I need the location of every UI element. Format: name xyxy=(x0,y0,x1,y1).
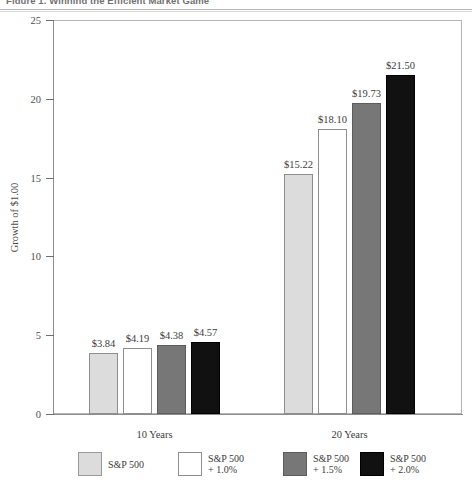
y-tick-label: 25 xyxy=(31,15,42,26)
y-tick-label: 0 xyxy=(36,409,41,420)
y-tick-label: 15 xyxy=(31,172,42,183)
x-group-label: 10 Years xyxy=(136,429,172,440)
bar xyxy=(123,348,152,414)
legend-label: S&P 500+ 2.0% xyxy=(390,453,426,475)
x-axis-line xyxy=(53,414,463,415)
y-tick-mark xyxy=(46,178,54,179)
legend-swatch-icon xyxy=(178,452,202,476)
legend-swatch-icon xyxy=(283,452,307,476)
legend-swatch-icon xyxy=(360,452,384,476)
bar xyxy=(89,353,118,414)
bar xyxy=(157,345,186,414)
bar-value-label: $15.22 xyxy=(284,159,313,170)
y-axis-tick-labels: 0510152025 xyxy=(0,0,44,482)
legend-label-line1: S&P 500 xyxy=(313,453,349,464)
y-tick-mark xyxy=(46,20,54,21)
legend-swatch-icon xyxy=(78,452,102,476)
bar xyxy=(352,103,381,414)
bar-value-label: $4.19 xyxy=(126,333,150,344)
legend-label-line1: S&P 500 xyxy=(108,459,144,470)
y-tick-mark xyxy=(46,414,54,415)
bar-value-label: $3.84 xyxy=(92,338,116,349)
legend-label-line1: S&P 500 xyxy=(208,453,244,464)
y-axis-line xyxy=(53,20,54,415)
legend-label-line2: + 1.5% xyxy=(313,464,349,475)
x-group-label: 20 Years xyxy=(331,429,367,440)
bar xyxy=(191,342,220,414)
legend-item[interactable]: S&P 500+ 1.0% xyxy=(178,452,244,476)
y-tick-mark xyxy=(46,256,54,257)
legend-label: S&P 500 xyxy=(108,459,144,470)
bar xyxy=(386,75,415,414)
bar-value-label: $18.10 xyxy=(318,114,347,125)
legend-item[interactable]: S&P 500+ 2.0% xyxy=(360,452,426,476)
bar-value-label: $4.57 xyxy=(194,327,218,338)
legend-label-line1: S&P 500 xyxy=(390,453,426,464)
y-tick-label: 10 xyxy=(31,251,42,262)
bar xyxy=(318,129,347,414)
bar-value-label: $21.50 xyxy=(386,60,415,71)
legend-label-line2: + 2.0% xyxy=(390,464,426,475)
legend-item[interactable]: S&P 500 xyxy=(78,452,144,476)
bar-value-label: $19.73 xyxy=(352,88,381,99)
y-axis-title: Growth of $1.00 xyxy=(9,158,20,278)
bar xyxy=(284,174,313,414)
title-divider-secondary xyxy=(0,11,472,12)
legend-label: S&P 500+ 1.0% xyxy=(208,453,244,475)
y-tick-mark xyxy=(46,99,54,100)
y-tick-label: 20 xyxy=(31,93,42,104)
chart-legend: S&P 500S&P 500+ 1.0%S&P 500+ 1.5%S&P 500… xyxy=(0,452,472,482)
legend-label-line2: + 1.0% xyxy=(208,464,244,475)
y-tick-label: 5 xyxy=(36,330,41,341)
bar-value-label: $4.38 xyxy=(160,330,184,341)
title-divider xyxy=(0,9,472,10)
legend-item[interactable]: S&P 500+ 1.5% xyxy=(283,452,349,476)
legend-label: S&P 500+ 1.5% xyxy=(313,453,349,475)
y-tick-mark xyxy=(46,335,54,336)
